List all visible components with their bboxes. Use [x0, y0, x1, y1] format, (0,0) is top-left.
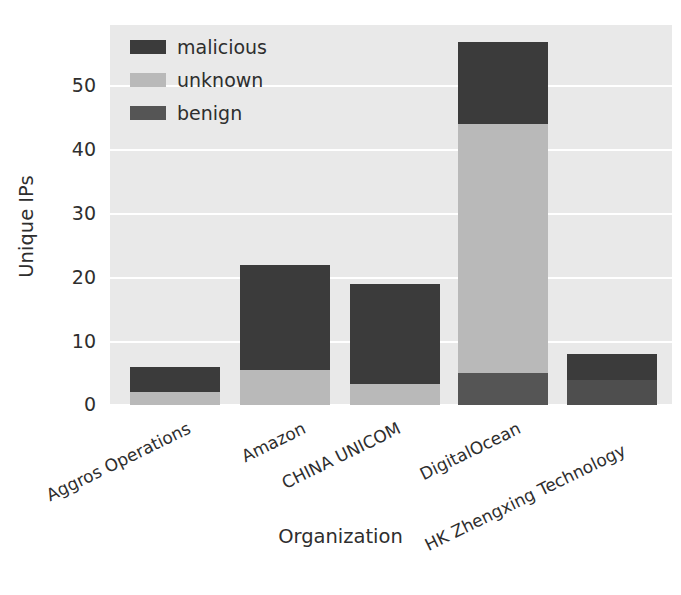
- bar-amazon[interactable]: [240, 265, 330, 405]
- bar-segment-unknown: [458, 124, 548, 373]
- bar-aggros-operations[interactable]: [130, 367, 220, 405]
- y-tick-label: 50: [72, 74, 96, 96]
- legend: malicious unknown benign: [122, 30, 277, 130]
- y-tick-label: 30: [72, 202, 96, 224]
- legend-label: unknown: [177, 69, 263, 91]
- x-axis-title: Organization: [0, 525, 681, 548]
- bar-segment-malicious: [130, 367, 220, 392]
- plot-area: malicious unknown benign: [110, 25, 672, 405]
- y-axis-title: Unique IPs: [15, 107, 38, 347]
- gridline-40: [110, 149, 672, 151]
- bar-chart-figure: 50 40 30 20 10 0 Unique IPs: [0, 0, 681, 595]
- bar-segment-unknown: [130, 392, 220, 405]
- legend-item-benign: benign: [130, 102, 267, 124]
- bar-segment-benign: [567, 380, 657, 405]
- bar-segment-unknown: [240, 370, 330, 405]
- x-tick-label-hk-zhengxing-technology: HK Zhengxing Technology: [364, 440, 629, 583]
- bar-segment-unknown: [350, 384, 440, 405]
- legend-swatch-malicious-icon: [130, 40, 166, 54]
- legend-item-malicious: malicious: [130, 36, 267, 58]
- bar-hk-zhengxing-technology[interactable]: [567, 354, 657, 405]
- bar-digitalocean[interactable]: [458, 42, 548, 405]
- bar-segment-malicious: [240, 265, 330, 370]
- bar-segment-malicious: [350, 284, 440, 384]
- x-tick-label-aggros-operations: Aggros Operations: [0, 418, 194, 530]
- bar-china-unicom[interactable]: [350, 284, 440, 405]
- legend-swatch-unknown-icon: [130, 73, 166, 87]
- y-tick-label: 40: [72, 138, 96, 160]
- legend-item-unknown: unknown: [130, 69, 267, 91]
- legend-label: malicious: [177, 36, 267, 58]
- gridline-30: [110, 213, 672, 215]
- y-tick-label: 0: [84, 393, 96, 415]
- legend-label: benign: [177, 102, 242, 124]
- legend-swatch-benign-icon: [130, 106, 166, 120]
- y-tick-label: 10: [72, 330, 96, 352]
- bar-segment-malicious: [567, 354, 657, 380]
- bar-segment-benign: [458, 373, 548, 405]
- y-tick-label: 20: [72, 266, 96, 288]
- bar-segment-malicious: [458, 42, 548, 124]
- gridline-20: [110, 277, 672, 279]
